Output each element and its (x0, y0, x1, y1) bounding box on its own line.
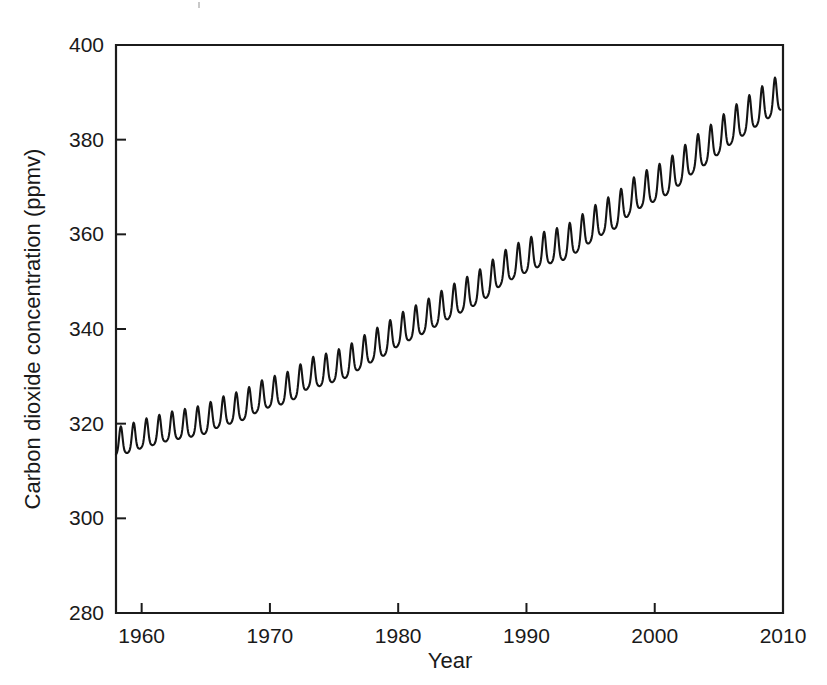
x-tick-label: 1970 (247, 624, 294, 647)
scan-artifact (198, 2, 200, 8)
x-tick-label: 1980 (375, 624, 422, 647)
y-tick-label: 340 (69, 317, 104, 340)
y-tick-label: 280 (69, 601, 104, 624)
y-tick-label: 320 (69, 412, 104, 435)
co2-series-line (116, 78, 780, 455)
y-tick-label: 360 (69, 222, 104, 245)
y-tick-label: 300 (69, 506, 104, 529)
x-tick-label: 2000 (631, 624, 678, 647)
y-tick-label: 400 (69, 33, 104, 56)
y-axis-title: Carbon dioxide concentration (ppmv) (20, 149, 45, 510)
x-tick-label: 1960 (118, 624, 165, 647)
y-axis-ticks: 280300320340360380400 (69, 33, 126, 624)
y-tick-label: 380 (69, 128, 104, 151)
x-tick-label: 1990 (503, 624, 550, 647)
x-tick-label: 2010 (760, 624, 807, 647)
chart-figure: 280300320340360380400 196019701980199020… (0, 0, 827, 685)
plot-frame (116, 45, 783, 613)
x-axis-ticks: 196019701980199020002010 (118, 603, 806, 647)
co2-line-chart: 280300320340360380400 196019701980199020… (0, 0, 827, 685)
x-axis-title: Year (428, 648, 472, 673)
